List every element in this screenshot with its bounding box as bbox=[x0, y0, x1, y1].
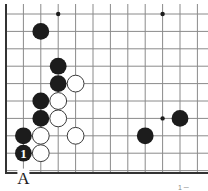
black-stone bbox=[32, 110, 49, 127]
white-stone-disc bbox=[32, 127, 49, 144]
white-stone bbox=[32, 145, 49, 162]
white-stone bbox=[67, 75, 84, 92]
black-stone bbox=[137, 127, 154, 144]
diagram-caption: 1 ─ bbox=[178, 184, 189, 191]
stone-move-number: 1 bbox=[20, 146, 27, 161]
black-stone bbox=[50, 75, 67, 92]
white-stone bbox=[32, 127, 49, 144]
black-stone-disc bbox=[32, 93, 49, 110]
white-stone bbox=[50, 110, 67, 127]
white-stone-disc bbox=[67, 127, 84, 144]
black-stone bbox=[172, 110, 189, 127]
white-stone-disc bbox=[32, 145, 49, 162]
black-stone: 1 bbox=[15, 145, 32, 162]
black-stone bbox=[50, 58, 67, 75]
star-point bbox=[160, 116, 164, 120]
black-stone-disc bbox=[32, 110, 49, 127]
black-stone-disc bbox=[15, 127, 32, 144]
black-stone bbox=[15, 127, 32, 144]
black-stone-disc bbox=[50, 75, 67, 92]
black-stone-disc bbox=[137, 127, 154, 144]
white-stone bbox=[67, 127, 84, 144]
point-label: A bbox=[17, 169, 30, 188]
go-board: 1 A 1 ─ bbox=[0, 0, 208, 191]
star-point bbox=[56, 12, 60, 16]
point-labels: A bbox=[17, 169, 30, 189]
black-stone bbox=[32, 23, 49, 40]
black-stone bbox=[32, 93, 49, 110]
white-stone-disc bbox=[50, 110, 67, 127]
white-stone-disc bbox=[50, 93, 67, 110]
white-stone-disc bbox=[67, 75, 84, 92]
black-stone-disc bbox=[32, 23, 49, 40]
star-point bbox=[160, 12, 164, 16]
black-stone-disc bbox=[172, 110, 189, 127]
white-stone bbox=[50, 93, 67, 110]
black-stone-disc bbox=[50, 58, 67, 75]
